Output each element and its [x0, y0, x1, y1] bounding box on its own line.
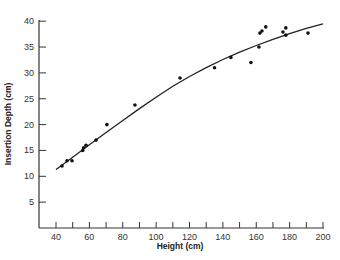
x-tick-label: 140 — [215, 232, 230, 242]
data-point — [65, 159, 69, 163]
data-point — [264, 25, 268, 29]
fitted-curve — [56, 24, 323, 170]
y-tick-label: 40 — [24, 16, 34, 26]
y-tick-label: 15 — [24, 145, 34, 155]
data-point — [133, 103, 137, 107]
y-tick-label: 5 — [29, 197, 34, 207]
scatter-chart: 510152025303540 406080100120140160180200… — [0, 0, 340, 260]
data-points — [60, 25, 310, 168]
data-point — [249, 61, 253, 65]
data-point — [60, 164, 64, 168]
x-tick-label: 40 — [51, 232, 61, 242]
data-point — [260, 29, 264, 33]
data-point — [229, 56, 233, 60]
y-tick-label: 25 — [24, 94, 34, 104]
y-tick-label: 20 — [24, 120, 34, 130]
y-tick-label: 10 — [24, 171, 34, 181]
x-tick-label: 60 — [84, 232, 94, 242]
x-tick-label: 80 — [118, 232, 128, 242]
data-point — [213, 66, 217, 70]
data-point — [281, 30, 285, 34]
data-point — [284, 26, 288, 30]
data-point — [284, 33, 288, 37]
data-point — [178, 76, 182, 80]
x-axis-title: Height (cm) — [157, 241, 204, 251]
y-axis-title: Insertion Depth (cm) — [3, 83, 13, 166]
data-point — [306, 31, 310, 35]
y-axis: 510152025303540 — [24, 16, 46, 228]
x-tick-label: 200 — [315, 232, 330, 242]
x-tick-label: 180 — [282, 232, 297, 242]
y-tick-label: 35 — [24, 42, 34, 52]
y-tick-label: 30 — [24, 68, 34, 78]
data-point — [94, 138, 98, 142]
data-point — [84, 143, 88, 147]
data-point — [70, 159, 74, 163]
data-point — [82, 146, 86, 150]
data-point — [257, 45, 261, 49]
x-axis: 406080100120140160180200 — [39, 222, 331, 242]
data-point — [105, 123, 109, 127]
x-tick-label: 160 — [249, 232, 264, 242]
